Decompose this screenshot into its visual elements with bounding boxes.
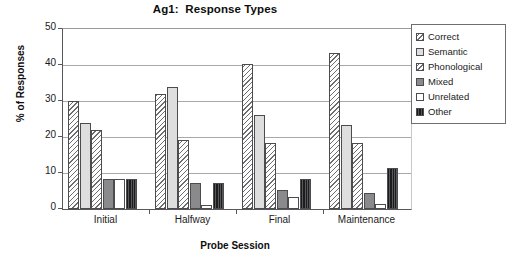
bar-group xyxy=(324,29,411,209)
x-tick-label: Maintenance xyxy=(323,214,410,225)
y-tick-label: 30 xyxy=(16,93,56,104)
bar xyxy=(300,179,311,209)
legend-label: Phonological xyxy=(428,61,482,72)
bar-group xyxy=(63,29,150,209)
bar xyxy=(201,205,212,209)
bar xyxy=(178,140,189,209)
y-tick-label: 50 xyxy=(16,21,56,32)
legend-label: Other xyxy=(428,106,452,117)
x-tick-label: Initial xyxy=(62,214,149,225)
y-axis-title: % of Responses xyxy=(15,34,26,134)
legend: CorrectSemanticPhonologicalMixedUnrelate… xyxy=(411,24,506,124)
legend-label: Semantic xyxy=(428,46,468,57)
legend-item[interactable]: Mixed xyxy=(416,74,502,89)
bar xyxy=(329,53,340,209)
bar-group xyxy=(150,29,237,209)
y-tick-label: 0 xyxy=(16,201,56,212)
bar xyxy=(352,143,363,209)
x-axis-separator xyxy=(236,209,237,214)
bar xyxy=(288,197,299,209)
bar xyxy=(190,183,201,209)
bar xyxy=(68,101,79,209)
bar xyxy=(341,125,352,209)
plot-area xyxy=(62,28,412,210)
y-tick-label: 40 xyxy=(16,57,56,68)
bar-chart: Ag1: Response Types % of Responses Probe… xyxy=(0,0,512,261)
bar xyxy=(375,204,386,209)
bar xyxy=(265,143,276,209)
legend-item[interactable]: Other xyxy=(416,104,502,119)
y-tick-label: 20 xyxy=(16,129,56,140)
bar xyxy=(213,183,224,209)
legend-swatch-icon xyxy=(416,93,424,101)
legend-label: Unrelated xyxy=(428,91,469,102)
bar xyxy=(80,123,91,209)
bar xyxy=(155,94,166,209)
bar xyxy=(103,179,114,209)
legend-swatch-icon xyxy=(416,48,424,56)
bar xyxy=(126,179,137,209)
legend-item[interactable]: Correct xyxy=(416,29,502,44)
legend-swatch-icon xyxy=(416,78,424,86)
x-axis-separator xyxy=(323,209,324,214)
x-tick-label: Halfway xyxy=(149,214,236,225)
bar xyxy=(91,130,102,209)
bar xyxy=(364,193,375,209)
legend-item[interactable]: Semantic xyxy=(416,44,502,59)
legend-item[interactable]: Phonological xyxy=(416,59,502,74)
chart-title: Ag1: Response Types xyxy=(0,3,430,15)
legend-swatch-icon xyxy=(416,33,424,41)
x-tick-label: Final xyxy=(236,214,323,225)
legend-swatch-icon xyxy=(416,63,424,71)
bar xyxy=(114,179,125,209)
bar xyxy=(242,64,253,209)
legend-label: Mixed xyxy=(428,76,453,87)
bar xyxy=(167,87,178,209)
x-axis-title: Probe Session xyxy=(60,240,410,251)
bar xyxy=(254,115,265,209)
bar-group xyxy=(237,29,324,209)
legend-swatch-icon xyxy=(416,108,424,116)
bar xyxy=(277,190,288,209)
y-tick-label: 10 xyxy=(16,165,56,176)
legend-item[interactable]: Unrelated xyxy=(416,89,502,104)
bar xyxy=(387,168,398,209)
x-axis-separator xyxy=(149,209,150,214)
legend-label: Correct xyxy=(428,31,459,42)
